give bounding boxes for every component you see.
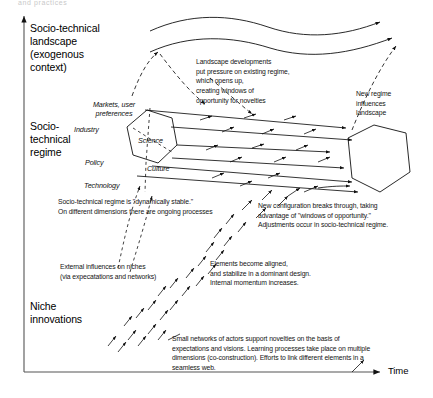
annotation-regime-dynamically-stable: Socio-technical regime is "dynamically s…	[58, 197, 248, 216]
regime-dimension-policy: Policy	[85, 158, 104, 167]
level-label-niche: Niche innovations	[30, 300, 122, 326]
regime-inner-dashed	[133, 108, 172, 192]
annotation-new-regime-influences: New regime influences landscape	[356, 89, 430, 118]
level-label-landscape: Socio-technical landscape (exogenous con…	[30, 22, 140, 75]
regime-dimension-technology: Technology	[84, 181, 120, 190]
mlp-diagram-figure: Socio-technical landscape (exogenous con…	[0, 0, 433, 398]
annotation-new-configuration: New configuration breaks through, taking…	[258, 201, 430, 230]
annotation-landscape-pressure: Landscape developments put pressure on e…	[196, 57, 321, 105]
regime-dimension-science: Science	[138, 136, 163, 145]
annotation-external-influences: External influences on niches (via expec…	[60, 262, 190, 281]
regime-dimension-markets: Markets, user preferences	[78, 100, 150, 118]
x-axis-label-time: Time	[388, 365, 408, 376]
cropped-caption-fragment: and practices	[18, 0, 67, 7]
regime-dimension-industry: Industry	[74, 125, 99, 134]
new-regime-hexagon-right	[348, 125, 410, 192]
niche-breakthrough-line	[318, 186, 350, 188]
annotation-elements-aligned: Elements become aligned, and stabilize i…	[210, 259, 345, 288]
regime-dimension-culture: Culture	[147, 164, 169, 173]
landscape-wave-lines	[150, 17, 392, 54]
